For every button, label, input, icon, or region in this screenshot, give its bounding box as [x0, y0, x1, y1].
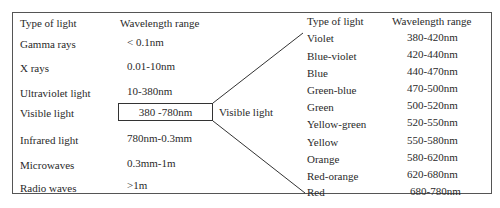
right-row-range: 380-420nm	[407, 31, 458, 44]
right-row-range: 470-500nm	[407, 82, 458, 95]
right-row-type: Blue	[307, 67, 328, 80]
right-row-type: Red	[307, 186, 325, 199]
right-row-type: Yellow	[307, 136, 338, 149]
right-row-range: 680-780nm	[410, 185, 461, 198]
right-row-range: 420-440nm	[407, 48, 458, 61]
left-header-type: Type of light	[20, 17, 77, 30]
right-row-type: Green-blue	[307, 84, 356, 97]
right-header-type: Type of light	[307, 15, 364, 28]
left-row-type: Radio waves	[20, 182, 77, 195]
left-row-range: 0.01-10nm	[127, 60, 175, 73]
left-row-type: Infrared light	[20, 134, 78, 147]
right-row-type: Orange	[307, 153, 339, 166]
right-row-range: 580-620nm	[407, 151, 458, 164]
right-row-type: Green	[307, 101, 334, 114]
right-row-type: Blue-violet	[307, 50, 357, 63]
left-row-type: X rays	[20, 62, 49, 75]
left-row-range: 0.3mm-1m	[127, 157, 176, 170]
right-row-type: Red-orange	[307, 170, 358, 183]
right-row-type: Violet	[307, 32, 334, 45]
right-row-range: 440-470nm	[407, 65, 458, 78]
left-row-range: >1m	[127, 179, 147, 192]
left-row-type: Microwaves	[20, 159, 74, 172]
right-row-range: 620-680nm	[407, 168, 458, 181]
right-header-range: Wavelength range	[392, 15, 471, 28]
right-row-range: 520-550nm	[407, 116, 458, 129]
left-header-range: Wavelength range	[120, 17, 199, 30]
right-row-type: Yellow-green	[307, 118, 366, 131]
left-row-range: < 0.1nm	[127, 36, 164, 49]
left-row-range: 780nm-0.3mm	[127, 132, 192, 145]
connector-label: Visible light	[219, 106, 273, 119]
left-row-type: Ultraviolet light	[20, 87, 91, 100]
left-row-range: 10-380nm	[127, 85, 172, 98]
right-row-range: 550-580nm	[407, 134, 458, 147]
left-row-type: Visible light	[20, 107, 74, 120]
visible-light-range-box: 380 -780nm	[118, 103, 213, 121]
left-row-type: Gamma rays	[20, 38, 76, 51]
right-row-range: 500-520nm	[407, 99, 458, 112]
